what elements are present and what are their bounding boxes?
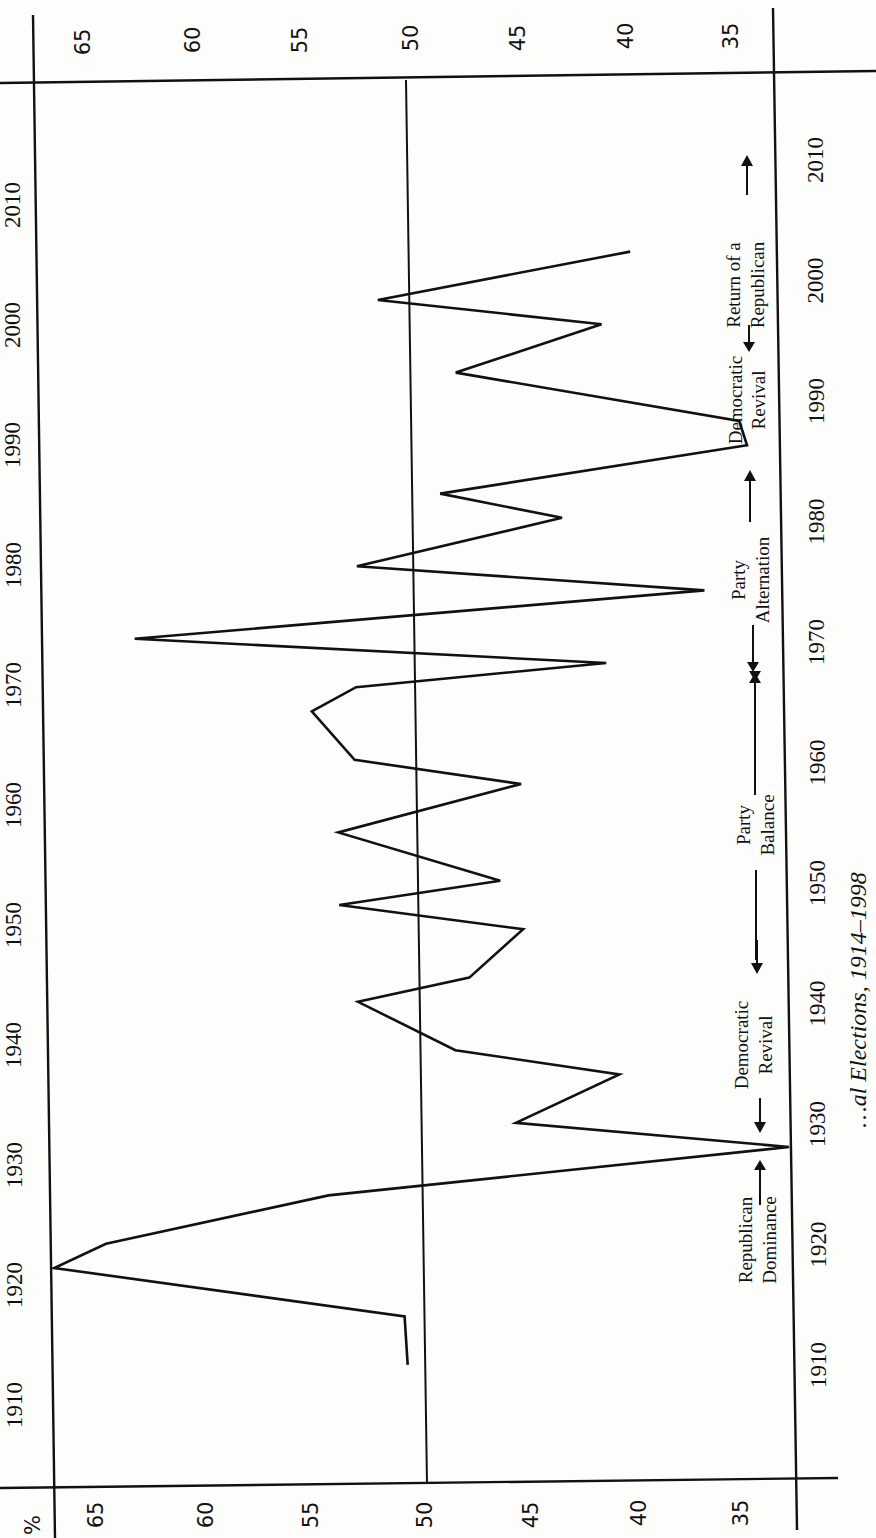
pct-tick: 50 <box>399 25 423 52</box>
year-tick-left: 1960 <box>1 782 26 828</box>
arrowhead-icon <box>747 662 759 672</box>
year-tick-right: 1930 <box>805 1101 830 1147</box>
year-tick-left: 1910 <box>2 1382 27 1428</box>
pct-tick: 40 <box>614 23 638 50</box>
year-tick-right: 1950 <box>805 860 830 906</box>
anno-democratic-revival-1: Democratic <box>731 1001 752 1090</box>
arrowhead-icon <box>741 155 753 166</box>
year-axis-left: 1910192019301940195019601970198019902000… <box>0 182 27 1428</box>
anno-democratic-revival-2: Revival <box>755 1015 776 1074</box>
pct-axis-top: 65 60 55 50 45 40 35 <box>71 23 743 56</box>
anno-republican-dominance-1: Republican <box>735 1196 756 1283</box>
anno-party-balance-1: Party <box>733 804 754 845</box>
year-tick-right: 1940 <box>805 981 830 1027</box>
arrowhead-icon <box>743 342 755 352</box>
anno-party-alternation-2: Alternation <box>752 536 773 623</box>
year-tick-right: 1960 <box>805 740 830 786</box>
pct-tick: 55 <box>288 27 312 54</box>
year-tick-left: 2000 <box>0 302 25 348</box>
year-tick-right: 2000 <box>803 258 828 304</box>
pct-tick: 55 <box>299 1502 323 1529</box>
year-tick-right: 1910 <box>806 1342 831 1388</box>
pct-tick: 65 <box>84 1502 108 1529</box>
year-tick-left: 1950 <box>1 902 26 948</box>
anno-republican-dominance-2: Dominance <box>759 1196 780 1284</box>
anno-party-balance-2: Balance <box>757 794 778 855</box>
year-tick-left: 1990 <box>0 422 25 468</box>
anno-return-republican-1: Return of a <box>723 242 744 328</box>
arrowhead-icon <box>749 671 761 681</box>
pct-tick: 45 <box>506 25 530 52</box>
year-tick-right: 1990 <box>804 378 829 424</box>
pct-tick: 65 <box>71 29 95 56</box>
pct-axis-bottom: % 65 60 55 50 45 40 35 <box>21 1500 753 1535</box>
rotated-line-chart: % 65 60 55 50 45 40 35 65 60 55 50 45 40… <box>0 0 876 1538</box>
year-axis-right: 1910192019301940195019601970198019902000… <box>803 137 831 1388</box>
pct-symbol: % <box>21 1515 45 1535</box>
arrowhead-icon <box>751 963 763 974</box>
year-tick-left: 1980 <box>1 542 26 588</box>
anno-democratic-revival-late-1: Democratic <box>725 356 746 445</box>
anno-party-alternation-1: Party <box>728 559 749 600</box>
year-tick-left: 2010 <box>0 182 25 228</box>
pct-tick: 60 <box>194 1502 218 1529</box>
pct-tick: 60 <box>181 27 205 54</box>
year-tick-right: 2010 <box>803 137 828 183</box>
arrowhead-icon <box>754 1160 766 1170</box>
arrowhead-icon <box>744 470 756 481</box>
period-annotations: Republican Dominance Democratic Revival … <box>723 155 780 1284</box>
year-tick-left: 1920 <box>2 1262 27 1308</box>
year-tick-left: 1940 <box>1 1022 26 1068</box>
anno-democratic-revival-late-2: Revival <box>748 370 769 429</box>
pct-tick: 35 <box>719 23 743 50</box>
year-tick-right: 1970 <box>804 619 829 665</box>
pct-tick: 45 <box>519 1502 543 1529</box>
pct-tick: 35 <box>729 1500 753 1527</box>
arrowhead-icon <box>754 1122 766 1133</box>
vote-share-line <box>54 252 789 1365</box>
year-tick-left: 1930 <box>2 1142 27 1188</box>
year-tick-right: 1920 <box>806 1222 831 1268</box>
anno-return-republican-2: Republican <box>747 241 768 328</box>
year-tick-right: 1980 <box>804 499 829 545</box>
year-tick-left: 1970 <box>1 662 26 708</box>
pct-tick: 40 <box>627 1500 651 1527</box>
pct-tick: 50 <box>413 1502 437 1529</box>
figure-caption: …al Elections, 1914–1998 <box>845 872 871 1127</box>
